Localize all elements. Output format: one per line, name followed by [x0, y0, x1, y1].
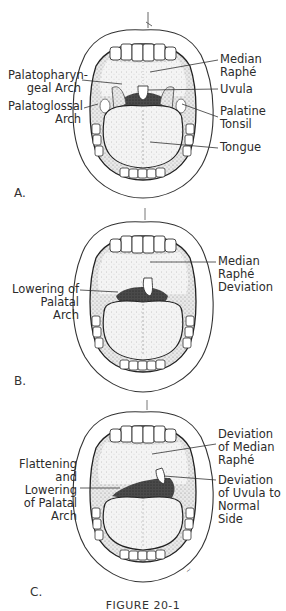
panel-letter-b: B. — [14, 374, 26, 388]
label-median-raphe: Median Raphé — [220, 53, 262, 79]
label-flattening-lowering-palatal-arch: Flattening and Lowering of Palatal Arch — [2, 458, 77, 523]
label-deviation-of-uvula: Deviation of Uvula to Normal Side — [218, 474, 281, 526]
label-palatoglossal-arch: Palatoglossal Arch — [8, 100, 81, 126]
panel-c: ~ Deviation of Median Raphé Deviation of… — [0, 400, 286, 600]
label-median-raphe-deviation: Median Raphé Deviation — [218, 255, 273, 294]
label-lowering-of-palatal-arch: Lowering of Palatal Arch — [2, 283, 79, 322]
panel-letter-a: A. — [14, 186, 26, 200]
label-palatine-tonsil: Palatine Tonsil — [220, 105, 266, 131]
label-tongue: Tongue — [220, 141, 261, 154]
figure-caption: FIGURE 20-1 — [0, 599, 286, 611]
panel-letter-c: C. — [30, 585, 42, 599]
artist-signature: ~ — [184, 566, 194, 576]
panel-b: Median Raphé Deviation Lowering of Palat… — [0, 200, 286, 400]
label-deviation-of-median-raphe: Deviation of Median Raphé — [218, 428, 275, 467]
label-uvula: Uvula — [220, 83, 253, 96]
panel-a: Median Raphé Uvula Palatine Tonsil Tongu… — [0, 0, 286, 200]
label-palatopharyngeal-arch: Palatopharyn- geal Arch — [8, 69, 81, 95]
